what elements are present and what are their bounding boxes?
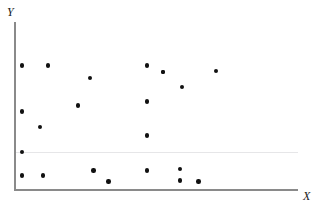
data-point (145, 133, 149, 137)
data-point (20, 150, 24, 154)
data-point (161, 70, 165, 74)
data-point (214, 69, 218, 73)
data-point (20, 109, 24, 113)
data-point (76, 103, 80, 107)
data-point (20, 173, 24, 177)
data-point (145, 63, 149, 67)
data-point (178, 178, 182, 182)
data-point (145, 168, 149, 172)
data-point (41, 173, 45, 177)
data-point (178, 167, 182, 171)
data-point (20, 63, 24, 67)
scatter-plot-figure: Y X (0, 0, 319, 212)
data-point (145, 99, 149, 103)
data-point (180, 85, 184, 89)
data-point (38, 125, 42, 129)
data-point (46, 63, 50, 67)
data-point (91, 168, 95, 172)
data-point (106, 179, 110, 183)
data-points-layer (0, 0, 319, 212)
data-point (88, 76, 92, 80)
data-point (196, 179, 200, 183)
